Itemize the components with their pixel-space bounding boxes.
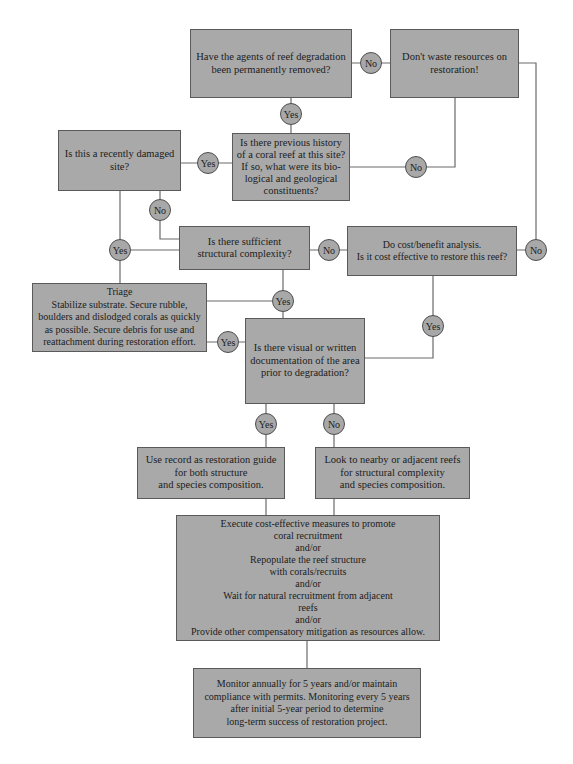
node-recently-damaged: Is this a recently damaged site? <box>58 130 181 191</box>
reef-restoration-flowchart: Have the agents of reef degradation been… <box>0 0 573 764</box>
label-waste-no: No <box>525 239 547 261</box>
label-complexity-no: No <box>318 239 340 261</box>
node-structural-complexity: Is there sufficient structural complexit… <box>179 226 310 270</box>
node-look-nearby: Look to nearby or adjacent reefs for str… <box>315 447 470 499</box>
node-documentation: Is there visual or written documentation… <box>245 318 365 404</box>
node-dont-waste: Don't waste resources on restoration! <box>390 29 519 98</box>
node-cost-benefit: Do cost/benefit analysis. Is it cost eff… <box>347 226 517 276</box>
label-damaged-yes: Yes <box>197 152 219 174</box>
label-doc-yes: Yes <box>255 413 277 435</box>
node-monitor: Monitor annually for 5 years and/or main… <box>193 668 421 738</box>
label-triage-doc-yes: Yes <box>217 331 239 353</box>
node-use-record: Use record as restoration guide for both… <box>137 447 285 499</box>
node-triage: Triage Stabilize substrate. Secure rubbl… <box>32 283 207 352</box>
label-cost-yes: Yes <box>422 315 444 337</box>
label-doc-no: No <box>323 413 345 435</box>
label-complexity-yes: Yes <box>272 290 294 312</box>
node-execute-measures: Execute cost-effective measures to promo… <box>176 515 440 641</box>
node-agents-removed: Have the agents of reef degradation been… <box>190 29 352 98</box>
label-triage-yes: Yes <box>109 239 131 261</box>
label-agents-yes: Yes <box>280 103 302 125</box>
node-previous-history: Is there previous history of a coral ree… <box>232 133 350 201</box>
label-agents-no: No <box>360 52 382 74</box>
label-history-no: No <box>405 156 427 178</box>
label-damaged-no: No <box>149 199 171 221</box>
